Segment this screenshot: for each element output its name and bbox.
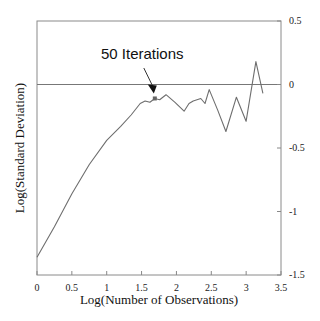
x-tick-label: 0 [35, 282, 40, 293]
y-tick-label: 0 [289, 79, 294, 90]
x-axis-title: Log(Number of Observations) [80, 292, 238, 307]
y-axis-title: Log(Standard Deviation) [12, 83, 27, 213]
x-tick-label: 3.5 [275, 282, 288, 293]
y-tick-label: -1.5 [289, 269, 305, 280]
x-tick-label: 0.5 [66, 282, 79, 293]
x-tick-label: 3 [244, 282, 249, 293]
annotation-label: 50 Iterations [101, 45, 184, 62]
y-tick-label: 0.5 [289, 15, 302, 26]
series-line [37, 62, 263, 258]
y-tick-label: -1 [289, 206, 297, 217]
annotation-marker [153, 96, 157, 100]
annotation-arrowhead-icon [148, 84, 157, 93]
chart: 00.511.522.533.50.50-0.5-1-1.5 50 Iterat… [0, 0, 320, 321]
data-series [37, 62, 263, 258]
y-tick-label: -0.5 [289, 142, 305, 153]
annotation: 50 Iterations [101, 45, 184, 100]
